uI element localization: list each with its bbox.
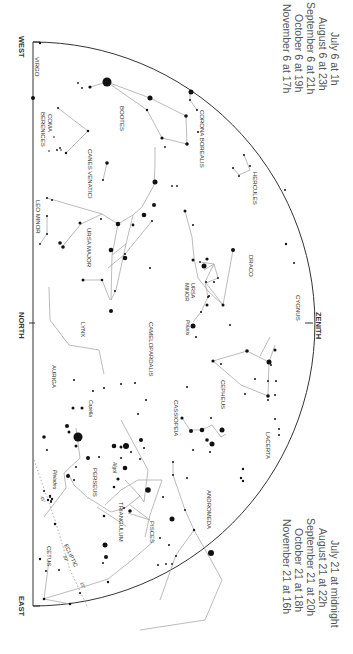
time-top-0: July 6 at 1h [329, 32, 341, 86]
time-top-2: September 6 at 21h [305, 2, 317, 94]
label-leo-minor: LEO MINOR [35, 200, 41, 234]
label-andromeda: ANDROMEDA [206, 490, 212, 529]
label-polaris: Polaris [185, 320, 191, 336]
label-cygnus: CYGNUS [295, 295, 301, 321]
star-map: WEST NORTH EAST ZENITH VIRGO BOOTES CORO… [0, 0, 353, 654]
label-lacerta: LACERTA [265, 432, 271, 459]
stars [31, 42, 295, 606]
label-pleiades: Pleiades [52, 470, 58, 490]
label-capella: Capella [88, 400, 94, 417]
label-pisces: PISCES [149, 521, 155, 543]
horizon-arc [33, 42, 315, 606]
capella-star [74, 433, 83, 442]
label-ursa-major: URSA MAJOR [86, 228, 92, 268]
label-camelopardalis: CAMELOPARDALIS [148, 322, 154, 377]
label-algol: Algol [112, 461, 118, 474]
label-draco: DRACO [248, 255, 254, 277]
time-top-3: October 6 at 19h [293, 14, 305, 92]
label-canes-venatici: CANES VENATICI [87, 149, 93, 199]
ecliptic-mark-45: 45° [39, 495, 46, 503]
label-cetus: CETUS [46, 546, 52, 566]
label-corona-borealis: CORONA BOREALIS [199, 110, 205, 168]
time-bottom-2: September 21 at 20h [305, 518, 317, 616]
time-top-1: August 6 at 23h [317, 17, 329, 91]
label-cassiopeia: CASSIOPEIA [173, 400, 179, 436]
label-auriga: AURIGA [51, 365, 57, 388]
arcturus-star [103, 78, 112, 87]
label-coma-2: BERENICES [40, 112, 46, 147]
label-hercules: HERCULES [252, 172, 258, 205]
ecliptic-line [34, 460, 88, 608]
label-triangulum: TRIANGULUM [118, 502, 124, 542]
time-bottom-4: November 21 at 16h [281, 519, 293, 614]
label-ursa-minor-2: MINOR [184, 283, 190, 301]
constellation-lines [40, 82, 275, 630]
label-zenith: ZENITH [314, 312, 323, 339]
label-lynx: LYNX [80, 322, 86, 337]
time-bottom-3: October 21 at 18h [293, 528, 305, 612]
time-bottom-0: July 21 at midnight [329, 540, 341, 628]
time-table-top: July 6 at 1h August 6 at 23h September 6… [281, 2, 341, 94]
label-bootes: BOOTES [119, 106, 125, 131]
time-table-bottom: July 21 at midnight August 21 at 22h Sep… [281, 518, 341, 628]
ecliptic-mark-15: 15° [79, 581, 86, 589]
label-coma-1: COMA [47, 114, 53, 132]
label-perseus: PERSEUS [92, 468, 98, 497]
time-top-4: November 6 at 17h [281, 4, 293, 93]
label-north: NORTH [17, 312, 26, 339]
label-west: WEST [17, 36, 26, 58]
label-virgo: VIRGO [34, 57, 40, 77]
label-east: EAST [17, 596, 26, 616]
time-bottom-1: August 21 at 22h [317, 528, 329, 608]
pleiades-cluster [47, 495, 53, 503]
label-cepheus: CEPHEUS [220, 380, 226, 409]
